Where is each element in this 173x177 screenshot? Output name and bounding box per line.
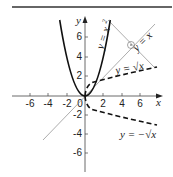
identity-label-group: y = x xyxy=(129,29,154,54)
sqrt-positive-label: y = √x xyxy=(113,59,144,76)
x-tick-label: -6 xyxy=(26,98,35,109)
identity-label: y = x xyxy=(129,29,154,54)
y-tick-label: -6 xyxy=(73,147,82,158)
y-axis-label: y xyxy=(75,14,81,26)
parabola-exponent: 2 xyxy=(101,18,110,24)
y-tick-label: 2 xyxy=(76,70,82,81)
x-tick-label: 6 xyxy=(137,98,143,109)
x-tick-label: 4 xyxy=(119,98,125,109)
graph-canvas: -6 -4 -2 0 2 4 6 x 6 4 2 -2 -4 -6 y y = … xyxy=(0,0,173,177)
x-tick-label: -4 xyxy=(44,98,53,109)
y-tick-label: 6 xyxy=(76,31,82,42)
sqrt-negative-label: y = −√x xyxy=(119,128,156,140)
x-tick-label: 2 xyxy=(100,98,106,109)
x-axis-label: x xyxy=(155,96,161,108)
y-tick-label: -4 xyxy=(73,128,82,139)
y-axis-arrow-icon xyxy=(83,16,88,23)
parabola-label: y = x xyxy=(93,25,112,51)
x-tick-label: -2 xyxy=(63,98,72,109)
y-tick-label: 4 xyxy=(76,51,82,62)
y-tick-label: -2 xyxy=(73,109,82,120)
